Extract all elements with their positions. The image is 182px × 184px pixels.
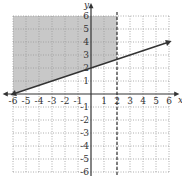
- y-tick-label: 5: [83, 24, 89, 34]
- y-tick-label: -4: [80, 141, 89, 151]
- y-tick-label: -5: [80, 154, 89, 164]
- x-tick-label: 2: [114, 96, 120, 106]
- x-tick-label: 5: [153, 96, 159, 106]
- inequality-graph: -6-5-4-3-2-1123456654321-1-2-3-4-5-6xy: [0, 0, 182, 184]
- x-tick-label: -3: [48, 96, 57, 106]
- x-tick-label: 4: [140, 96, 146, 106]
- x-axis-label: x: [178, 95, 182, 105]
- y-tick-label: -2: [80, 115, 89, 125]
- x-tick-label: 3: [127, 96, 133, 106]
- y-tick-label: -6: [80, 167, 89, 177]
- y-tick-label: 3: [83, 50, 89, 60]
- y-tick-label: 4: [83, 37, 89, 47]
- x-tick-label: -2: [61, 96, 70, 106]
- y-axis-label: y: [83, 0, 90, 10]
- y-tick-label: -3: [80, 128, 89, 138]
- x-axis-arrow-left-icon: [3, 92, 8, 97]
- y-tick-label: -1: [80, 102, 89, 112]
- x-tick-label: -4: [35, 96, 44, 106]
- line-arrow-right-icon: [165, 40, 172, 46]
- x-tick-label: -5: [22, 96, 31, 106]
- y-axis-arrow-icon: [89, 3, 94, 8]
- y-tick-label: 1: [83, 76, 89, 86]
- x-tick-label: 1: [101, 96, 107, 106]
- y-tick-label: 6: [83, 11, 89, 21]
- x-tick-label: 6: [166, 96, 172, 106]
- y-tick-label: 2: [83, 63, 89, 73]
- x-tick-label: -6: [9, 96, 18, 106]
